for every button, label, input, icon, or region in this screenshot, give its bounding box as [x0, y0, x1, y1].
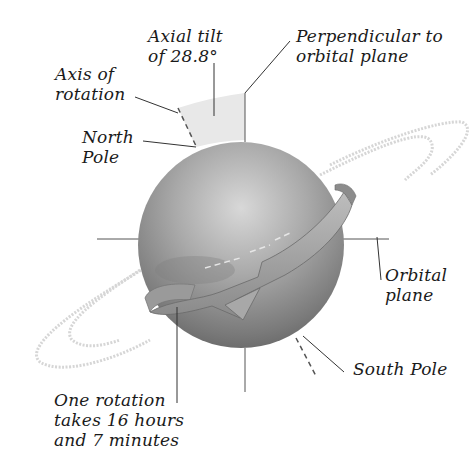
rotation-axis-bottom: [296, 338, 316, 376]
label-axial-tilt: Axial tilt of 28.8°: [148, 26, 223, 66]
label-axis-of-rotation: Axis of rotation: [55, 64, 125, 104]
label-south-pole: South Pole: [353, 359, 448, 379]
label-rotation-period: One rotation takes 16 hours and 7 minute…: [54, 390, 184, 450]
label-perpendicular: Perpendicular to orbital plane: [296, 26, 443, 66]
label-north-pole: North Pole: [82, 127, 134, 167]
label-orbital-plane: Orbital plane: [385, 265, 447, 305]
axial-tilt-wedge: [178, 93, 245, 147]
